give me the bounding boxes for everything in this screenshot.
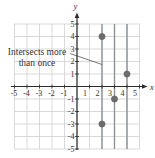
x-tick-label: -1 [61, 89, 68, 98]
x-tick-label: -4 [23, 89, 30, 98]
y-tick-label: -2 [68, 107, 75, 116]
y-tick-label: 2 [71, 57, 75, 66]
annotation-line-1: Intersects more [4, 47, 70, 58]
x-tick-label: -3 [36, 89, 43, 98]
x-tick-label: 4 [121, 89, 125, 98]
x-tick-label: 3 [108, 89, 112, 98]
x-axis-label: x [149, 82, 154, 92]
y-tick-label: -5 [68, 145, 75, 154]
data-point [99, 33, 105, 39]
vertical-line-test-figure: -5-4-3-2-112345-5-4-3-2-112345xy Interse… [0, 0, 155, 158]
y-axis-arrow [75, 13, 80, 19]
data-point [124, 71, 130, 77]
y-tick-label: 4 [71, 32, 75, 41]
x-tick-label: 2 [96, 89, 100, 98]
y-tick-label: -4 [68, 132, 75, 141]
x-axis-arrow [142, 84, 148, 89]
y-tick-label: -1 [68, 95, 75, 104]
x-tick-label: -2 [48, 89, 55, 98]
x-tick-label: 1 [83, 89, 87, 98]
y-tick-label: 5 [71, 20, 75, 29]
annotation-callout: Intersects more than once [4, 47, 70, 69]
data-point [99, 121, 105, 127]
y-tick-label: -3 [68, 120, 75, 129]
coordinate-plane: -5-4-3-2-112345-5-4-3-2-112345xy [0, 0, 155, 158]
data-point [111, 96, 117, 102]
x-tick-label: 5 [133, 89, 137, 98]
y-axis-label: y [73, 1, 78, 11]
x-tick-label: -5 [11, 89, 18, 98]
y-tick-label: 3 [71, 45, 75, 54]
annotation-line-2: than once [4, 58, 70, 69]
y-tick-label: 1 [71, 70, 75, 79]
leader-line [70, 54, 102, 65]
